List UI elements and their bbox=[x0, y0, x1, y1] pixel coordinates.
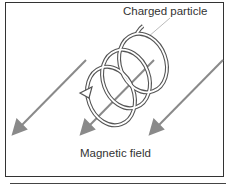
magnetic-field-label: Magnetic field bbox=[80, 147, 151, 159]
label-leader-line bbox=[148, 18, 170, 37]
charged-particle-label: Charged particle bbox=[123, 5, 207, 17]
